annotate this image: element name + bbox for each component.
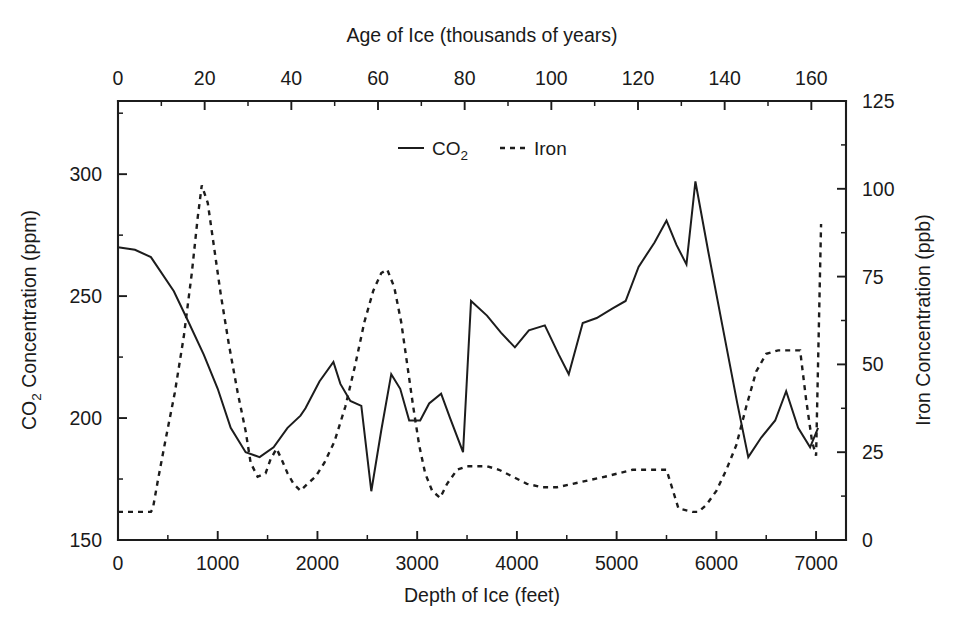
bottom-axis-tick-labels: 01000200030004000500060007000 xyxy=(113,552,838,574)
right-axis-title: Iron Concentration (ppb) xyxy=(912,214,934,425)
tick-label: 2000 xyxy=(296,552,340,574)
left-axis-tick-labels: 150200250300 xyxy=(69,163,102,551)
tick-label: 75 xyxy=(862,266,884,288)
left-axis-title: CO2 Concentration (ppm) xyxy=(18,210,44,430)
tick-label: 4000 xyxy=(495,552,539,574)
tick-label: 100 xyxy=(535,67,568,89)
series-line-iron xyxy=(118,185,821,512)
tick-label: 6000 xyxy=(695,552,739,574)
bottom-axis-ticks xyxy=(118,531,816,540)
chart-figure: 020406080100120140160 010002000300040005… xyxy=(0,0,962,628)
legend-label-iron: Iron xyxy=(534,138,567,159)
tick-label: 300 xyxy=(69,163,102,185)
top-axis-ticks xyxy=(118,101,811,110)
tick-label: 0 xyxy=(113,67,124,89)
tick-label: 120 xyxy=(622,67,655,89)
plot-frame xyxy=(118,101,846,540)
tick-label: 200 xyxy=(69,407,102,429)
top-axis-title: Age of Ice (thousands of years) xyxy=(347,24,618,46)
data-series-group xyxy=(118,181,821,511)
tick-label: 1000 xyxy=(196,552,240,574)
tick-label: 0 xyxy=(862,529,873,551)
series-line-co2 xyxy=(118,181,818,491)
tick-label: 40 xyxy=(280,67,302,89)
co2-iron-line-chart: 020406080100120140160 010002000300040005… xyxy=(0,0,962,628)
tick-label: 100 xyxy=(862,178,895,200)
tick-label: 7000 xyxy=(794,552,838,574)
tick-label: 0 xyxy=(113,552,124,574)
right-axis-tick-labels: 0255075100125 xyxy=(862,90,895,551)
tick-label: 140 xyxy=(708,67,741,89)
right-axis-ticks xyxy=(837,101,846,540)
tick-label: 60 xyxy=(367,67,389,89)
tick-label: 125 xyxy=(862,90,895,112)
left-axis-ticks xyxy=(118,113,127,540)
tick-label: 250 xyxy=(69,285,102,307)
top-axis-tick-labels: 020406080100120140160 xyxy=(113,67,828,89)
tick-label: 25 xyxy=(862,441,884,463)
chart-legend: CO2 Iron xyxy=(398,138,567,163)
tick-label: 5000 xyxy=(595,552,639,574)
tick-label: 150 xyxy=(69,529,102,551)
tick-label: 50 xyxy=(862,353,884,375)
tick-label: 3000 xyxy=(395,552,439,574)
bottom-axis-title: Depth of Ice (feet) xyxy=(404,584,560,606)
tick-label: 160 xyxy=(795,67,828,89)
legend-label-co2: CO2 xyxy=(432,138,468,163)
tick-label: 20 xyxy=(194,67,216,89)
tick-label: 80 xyxy=(454,67,476,89)
